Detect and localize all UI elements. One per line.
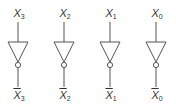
not-gate-x1: [100, 22, 120, 87]
input-label-x1: X1: [105, 8, 116, 20]
input-label-x0: X0: [151, 8, 162, 20]
output-label-x0-bar: X0: [151, 90, 162, 102]
triangle-icon: [146, 42, 166, 62]
inversion-bubble-icon: [107, 62, 112, 67]
not-gate-x2: [54, 22, 74, 87]
inversion-bubble-icon: [153, 62, 158, 67]
output-label-x1-bar: X1: [105, 90, 116, 102]
inverter-diagram: X3 X2 X1 X0 X3 X2 X1 X0: [0, 0, 176, 107]
not-gate-x3: [8, 22, 28, 87]
input-label-x3: X3: [13, 8, 24, 20]
triangle-icon: [8, 42, 28, 62]
triangle-icon: [54, 42, 74, 62]
inversion-bubble-icon: [15, 62, 20, 67]
output-label-x2-bar: X2: [59, 90, 70, 102]
input-label-x2: X2: [59, 8, 70, 20]
output-label-x3-bar: X3: [13, 90, 24, 102]
not-gate-x0: [146, 22, 166, 87]
diagram-canvas: [0, 0, 176, 107]
triangle-icon: [100, 42, 120, 62]
inversion-bubble-icon: [61, 62, 66, 67]
